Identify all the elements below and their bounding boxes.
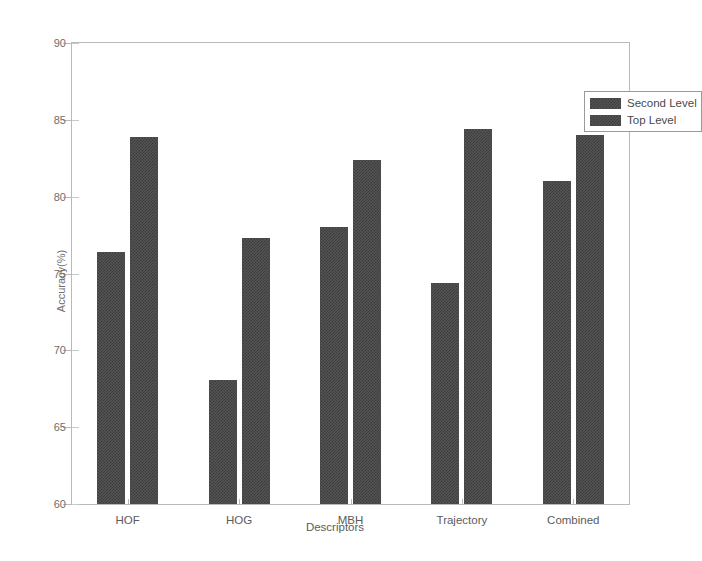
y-tick-inner-mark xyxy=(72,43,79,44)
y-tick-label: 70 xyxy=(54,345,66,356)
bar xyxy=(209,380,237,504)
y-tick-inner-mark xyxy=(72,120,79,121)
bar xyxy=(320,227,348,504)
legend-item-label: Top Level xyxy=(627,115,676,127)
y-tick-inner-mark xyxy=(72,197,79,198)
x-axis-title: Descriptors xyxy=(306,521,364,533)
bar xyxy=(130,137,158,504)
legend-swatch-icon xyxy=(590,98,621,109)
legend-swatch-icon xyxy=(590,115,621,126)
bar xyxy=(543,181,571,504)
y-tick-label: 80 xyxy=(54,191,66,202)
y-tick-label: 75 xyxy=(54,268,66,279)
x-tick-mark xyxy=(462,499,463,505)
plot-area: 60657075808590 HOFHOGMBHTrajectoryCombin… xyxy=(71,42,630,505)
x-tick-label: HOF xyxy=(116,514,140,526)
legend-item-label: Second Level xyxy=(627,98,697,110)
bar xyxy=(242,238,270,504)
y-tick-label: 90 xyxy=(54,38,66,49)
y-tick-inner-mark xyxy=(72,350,79,351)
x-tick-label: Trajectory xyxy=(437,514,488,526)
legend-item: Second Level xyxy=(590,95,696,112)
x-tick-label: HOG xyxy=(226,514,252,526)
bar xyxy=(431,283,459,504)
y-tick-label: 60 xyxy=(54,499,66,510)
bar xyxy=(353,160,381,504)
y-tick-label: 65 xyxy=(54,422,66,433)
bar xyxy=(464,129,492,504)
y-tick-label: 85 xyxy=(54,114,66,125)
chart-legend: Second Level Top Level xyxy=(584,91,702,132)
y-tick-inner-mark xyxy=(72,504,79,505)
bar xyxy=(576,135,604,504)
x-tick-mark xyxy=(351,499,352,505)
y-axis-title: Accuracy(%) xyxy=(55,249,67,311)
x-tick-label: Combined xyxy=(547,514,599,526)
x-tick-mark xyxy=(128,499,129,505)
legend-item: Top Level xyxy=(590,112,696,129)
y-tick-inner-mark xyxy=(72,427,79,428)
x-tick-mark xyxy=(573,499,574,505)
bar xyxy=(97,252,125,504)
y-tick-inner-mark xyxy=(72,274,79,275)
x-tick-mark xyxy=(239,499,240,505)
